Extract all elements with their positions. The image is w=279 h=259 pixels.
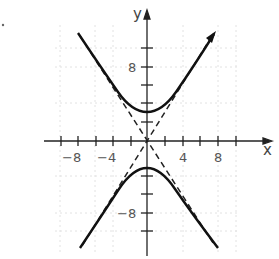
arrow-head-icon bbox=[206, 31, 216, 43]
y-tick-label-neg8: −8 bbox=[117, 206, 136, 221]
hyperbola-graph: y x −8 −4 4 8 8 −8 bbox=[0, 0, 279, 259]
upper-branch bbox=[78, 33, 214, 112]
x-axis-label: x bbox=[263, 141, 272, 159]
y-tick-label-8: 8 bbox=[128, 60, 136, 75]
y-axis-label: y bbox=[133, 5, 142, 23]
x-tick-label-4: 4 bbox=[179, 150, 187, 165]
x-tick-label-neg8: −8 bbox=[62, 150, 81, 165]
x-tick-label-neg4: −4 bbox=[97, 150, 116, 165]
x-tick-label-8: 8 bbox=[214, 150, 222, 165]
lower-branch bbox=[80, 168, 218, 248]
x-axis bbox=[44, 136, 272, 146]
stray-dot bbox=[2, 24, 4, 26]
